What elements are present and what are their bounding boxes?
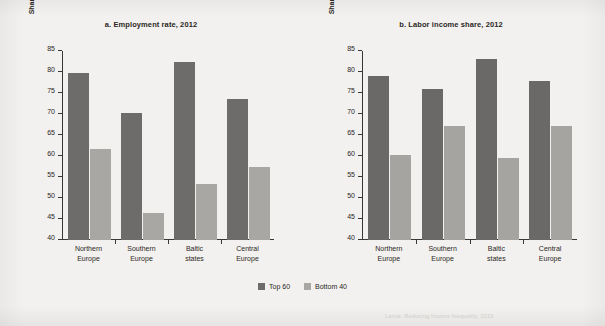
y-tick-label: 65: [347, 129, 355, 136]
x-category-label-line: Europe: [361, 254, 417, 264]
bar-bottom40: [196, 184, 217, 240]
bar-top60: [368, 76, 389, 240]
y-tick-label: 40: [347, 234, 355, 241]
chart-panel-b: b. Labor income share, 2012 Share of peo…: [300, 0, 602, 290]
bar-top60: [68, 73, 89, 240]
chart-legend: Top 60 Bottom 40: [0, 283, 605, 290]
x-category-label-line: Europe: [522, 254, 578, 264]
x-category-label-line: Central: [522, 244, 578, 254]
legend-item-top60: Top 60: [258, 283, 290, 290]
legend-label-bottom40: Bottom 40: [315, 283, 347, 290]
x-category-label-line: Europe: [220, 254, 276, 264]
figure-canvas: a. Employment rate, 2012 Share of people…: [0, 0, 605, 326]
y-tick-label: 85: [347, 45, 355, 52]
y-tick-label: 80: [347, 66, 355, 73]
x-category-label: SouthernEurope: [415, 244, 471, 263]
y-tick-label: 40: [47, 234, 55, 241]
bar-group: [416, 51, 470, 240]
y-tick-label: 60: [47, 150, 55, 157]
bar-group: [362, 51, 416, 240]
y-tick-label: 45: [347, 213, 355, 220]
bar-bottom40: [143, 213, 164, 240]
x-category-label: Balticstates: [468, 244, 524, 263]
x-category-label-line: Southern: [415, 244, 471, 254]
y-tick-label: 70: [347, 108, 355, 115]
bar-top60: [476, 59, 497, 240]
legend-swatch-bottom40: [304, 283, 311, 290]
x-category-label-line: Europe: [61, 254, 117, 264]
bar-top60: [121, 113, 142, 240]
bar-group: [221, 51, 274, 240]
panel-b-y-axis-label: Share of people ages 25–64 (%): [328, 0, 339, 47]
x-category-label-line: states: [167, 254, 223, 264]
x-category-label: Balticstates: [167, 244, 223, 263]
bar-bottom40: [444, 126, 465, 240]
y-tick-label: 50: [347, 192, 355, 199]
footnote-fragment: Latvia: Reducing Income Inequality, 2015: [385, 313, 600, 319]
panel-b-plot-area: 40455055606570758085 NorthernEuropeSouth…: [362, 51, 577, 240]
panel-b-title: b. Labor income share, 2012: [300, 20, 602, 29]
panel-a-y-axis-label: Share of people ages 25–64 (%): [28, 0, 39, 47]
bar-group: [523, 51, 577, 240]
bar-group: [115, 51, 168, 240]
y-tick-label: 55: [47, 171, 55, 178]
y-tick-label: 65: [47, 129, 55, 136]
legend-item-bottom40: Bottom 40: [304, 283, 347, 290]
y-tick-label: 50: [47, 192, 55, 199]
y-tick-label: 80: [47, 66, 55, 73]
bar-top60: [529, 81, 550, 240]
x-category-label-line: Southern: [114, 244, 170, 254]
x-category-label: SouthernEurope: [114, 244, 170, 263]
x-category-label-line: Europe: [415, 254, 471, 264]
legend-label-top60: Top 60: [269, 283, 290, 290]
x-category-label-line: Northern: [361, 244, 417, 254]
y-tick-label: 85: [47, 45, 55, 52]
x-category-label-line: Europe: [114, 254, 170, 264]
bar-top60: [422, 89, 443, 240]
legend-swatch-top60: [258, 283, 265, 290]
bar-bottom40: [90, 149, 111, 240]
x-category-label: NorthernEurope: [61, 244, 117, 263]
panel-a-plot-area: 40455055606570758085 NorthernEuropeSouth…: [62, 51, 274, 240]
panel-a-title: a. Employment rate, 2012: [0, 20, 302, 29]
bar-bottom40: [498, 158, 519, 240]
bar-group: [168, 51, 221, 240]
bar-bottom40: [390, 155, 411, 240]
y-tick-label: 55: [347, 171, 355, 178]
x-category-label-line: Northern: [61, 244, 117, 254]
x-category-label-line: Baltic: [167, 244, 223, 254]
x-category-label-line: states: [468, 254, 524, 264]
y-tick-label: 75: [347, 87, 355, 94]
x-category-label: NorthernEurope: [361, 244, 417, 263]
bar-top60: [174, 62, 195, 240]
bar-top60: [227, 99, 248, 240]
x-category-label: CentralEurope: [522, 244, 578, 263]
y-tick-label: 60: [347, 150, 355, 157]
bar-group: [62, 51, 115, 240]
x-category-label-line: Central: [220, 244, 276, 254]
y-tick-label: 45: [47, 213, 55, 220]
y-tick-label: 70: [47, 108, 55, 115]
chart-panel-a: a. Employment rate, 2012 Share of people…: [0, 0, 302, 290]
bar-group: [470, 51, 524, 240]
x-category-label: CentralEurope: [220, 244, 276, 263]
bar-bottom40: [551, 126, 572, 240]
y-tick-label: 75: [47, 87, 55, 94]
x-category-label-line: Baltic: [468, 244, 524, 254]
bar-bottom40: [249, 167, 270, 240]
